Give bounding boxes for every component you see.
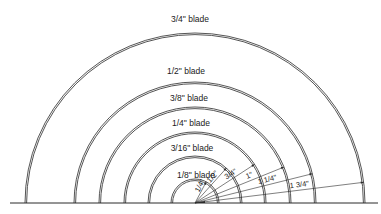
radius-lines: 1/4"1/2"3/4"1"1 1/4"1 3/4": [193, 164, 364, 203]
arrowhead-icon: [281, 167, 284, 169]
blade-label: 3/8" blade: [170, 93, 208, 103]
blade-label: 1/4" blade: [172, 118, 210, 128]
blade-label: 3/4" blade: [171, 14, 209, 24]
radius-label: 1 3/4": [289, 179, 310, 190]
blade-labels: 1/8" blade3/16" blade1/4" blade3/8" blad…: [167, 14, 215, 180]
blade-label: 3/16" blade: [171, 143, 214, 153]
blade-label: 1/8" blade: [177, 170, 215, 180]
blade-label: 1/2" blade: [167, 66, 205, 76]
blade-radius-diagram: 1/4"1/2"3/4"1"1 1/4"1 3/4" 1/8" blade3/1…: [0, 0, 381, 214]
radius-label: 1": [244, 170, 254, 181]
